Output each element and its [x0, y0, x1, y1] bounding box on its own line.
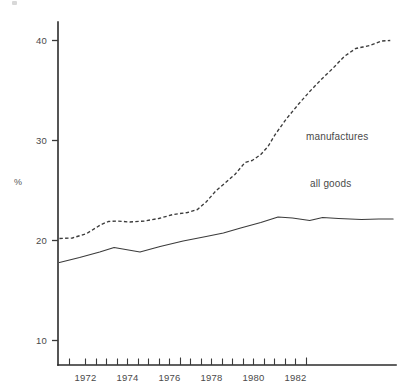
- x-tick-label-1982: 1982: [285, 372, 307, 383]
- y-tick-label-10: 10: [36, 335, 47, 346]
- series-line-all-goods: [59, 217, 393, 263]
- y-axis-ticks: [52, 41, 58, 341]
- x-axis-tick-labels: 1972 1974 1976 1978 1980 1982: [75, 372, 307, 383]
- y-tick-label-40: 40: [36, 35, 47, 46]
- series-label-all-goods: all goods: [310, 178, 351, 189]
- x-tick-label-1980: 1980: [243, 372, 265, 383]
- y-axis-tick-labels: 40 30 20 10: [36, 35, 47, 346]
- x-tick-label-1978: 1978: [201, 372, 223, 383]
- y-tick-label-20: 20: [36, 235, 47, 246]
- x-tick-label-1976: 1976: [159, 372, 181, 383]
- x-tick-label-1972: 1972: [75, 372, 97, 383]
- y-tick-label-30: 30: [36, 135, 47, 146]
- chart-figure: 40 30 20 10 %: [0, 0, 409, 392]
- y-axis-caption: %: [14, 177, 22, 187]
- series-label-manufactures: manufactures: [306, 131, 368, 142]
- line-chart-canvas: 40 30 20 10 %: [0, 0, 409, 392]
- x-axis-ticks: [70, 358, 307, 366]
- x-tick-label-1974: 1974: [117, 372, 139, 383]
